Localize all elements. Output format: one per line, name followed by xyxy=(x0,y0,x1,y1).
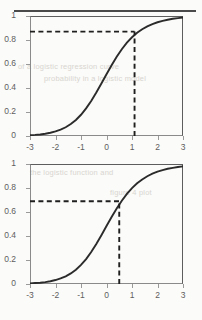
y-axis-tick-label: 0.8 xyxy=(4,34,16,44)
chart-logistic-bottom: 00.20.40.60.81-3-2-10123 xyxy=(0,162,202,302)
x-axis-tick-mark xyxy=(30,284,31,288)
series-line-0 xyxy=(30,166,183,283)
plot-canvas xyxy=(30,164,183,284)
x-axis-tick-label: -2 xyxy=(52,142,60,152)
y-axis-tick-mark xyxy=(26,112,30,113)
y-axis-tick-label: 0.8 xyxy=(4,182,16,192)
y-axis-tick-mark xyxy=(26,212,30,213)
annotation-reference-lines xyxy=(30,32,135,136)
x-axis-tick-mark xyxy=(107,136,108,140)
y-axis-tick-label: 1 xyxy=(11,10,16,20)
x-axis-tick-label: 2 xyxy=(155,142,160,152)
x-axis-tick-label: 2 xyxy=(155,290,160,300)
y-axis-tick-mark xyxy=(26,40,30,41)
x-axis-tick-label: -3 xyxy=(26,290,34,300)
header-divider-rule xyxy=(14,10,196,12)
y-axis-tick-mark xyxy=(26,164,30,165)
x-axis-tick-label: -1 xyxy=(77,142,85,152)
x-axis-tick-mark xyxy=(158,284,159,288)
y-axis-tick-label: 0.6 xyxy=(4,58,16,68)
chart-logistic-top: 00.20.40.60.81-3-2-10123 xyxy=(0,14,202,154)
x-axis-tick-label: 3 xyxy=(181,142,186,152)
y-axis-tick-label: 0 xyxy=(11,130,16,140)
plot-canvas xyxy=(30,16,183,136)
x-axis-tick-mark xyxy=(183,136,184,140)
y-axis-tick-label: 1 xyxy=(11,158,16,168)
x-axis-tick-mark xyxy=(30,136,31,140)
y-axis-tick-label: 0 xyxy=(11,278,16,288)
x-axis-tick-label: 1 xyxy=(130,142,135,152)
x-axis-tick-mark xyxy=(132,136,133,140)
y-axis-tick-mark xyxy=(26,260,30,261)
y-axis-tick-mark xyxy=(26,188,30,189)
x-axis-tick-mark xyxy=(158,136,159,140)
x-axis-tick-mark xyxy=(56,284,57,288)
x-axis-tick-mark xyxy=(81,136,82,140)
x-axis-tick-label: -2 xyxy=(52,290,60,300)
x-axis-tick-mark xyxy=(56,136,57,140)
x-axis-tick-label: -3 xyxy=(26,142,34,152)
y-axis-tick-mark xyxy=(26,16,30,17)
y-axis-tick-label: 0.2 xyxy=(4,254,16,264)
x-axis-tick-label: 3 xyxy=(181,290,186,300)
y-axis-tick-mark xyxy=(26,64,30,65)
y-axis-tick-label: 0.2 xyxy=(4,106,16,116)
y-axis-tick-label: 0.6 xyxy=(4,206,16,216)
y-axis-tick-mark xyxy=(26,236,30,237)
y-axis-tick-mark xyxy=(26,88,30,89)
x-axis-tick-label: -1 xyxy=(77,290,85,300)
x-axis-tick-mark xyxy=(132,284,133,288)
y-axis-tick-label: 0.4 xyxy=(4,230,16,240)
series-line-0 xyxy=(30,18,183,136)
x-axis-tick-label: 0 xyxy=(104,142,109,152)
x-axis-tick-mark xyxy=(183,284,184,288)
scanned-figure-page: of a logistic regression curve probabili… xyxy=(0,0,202,320)
x-axis-tick-mark xyxy=(81,284,82,288)
y-axis-tick-label: 0.4 xyxy=(4,82,16,92)
x-axis-tick-label: 0 xyxy=(104,290,109,300)
x-axis-tick-mark xyxy=(107,284,108,288)
x-axis-tick-label: 1 xyxy=(130,290,135,300)
